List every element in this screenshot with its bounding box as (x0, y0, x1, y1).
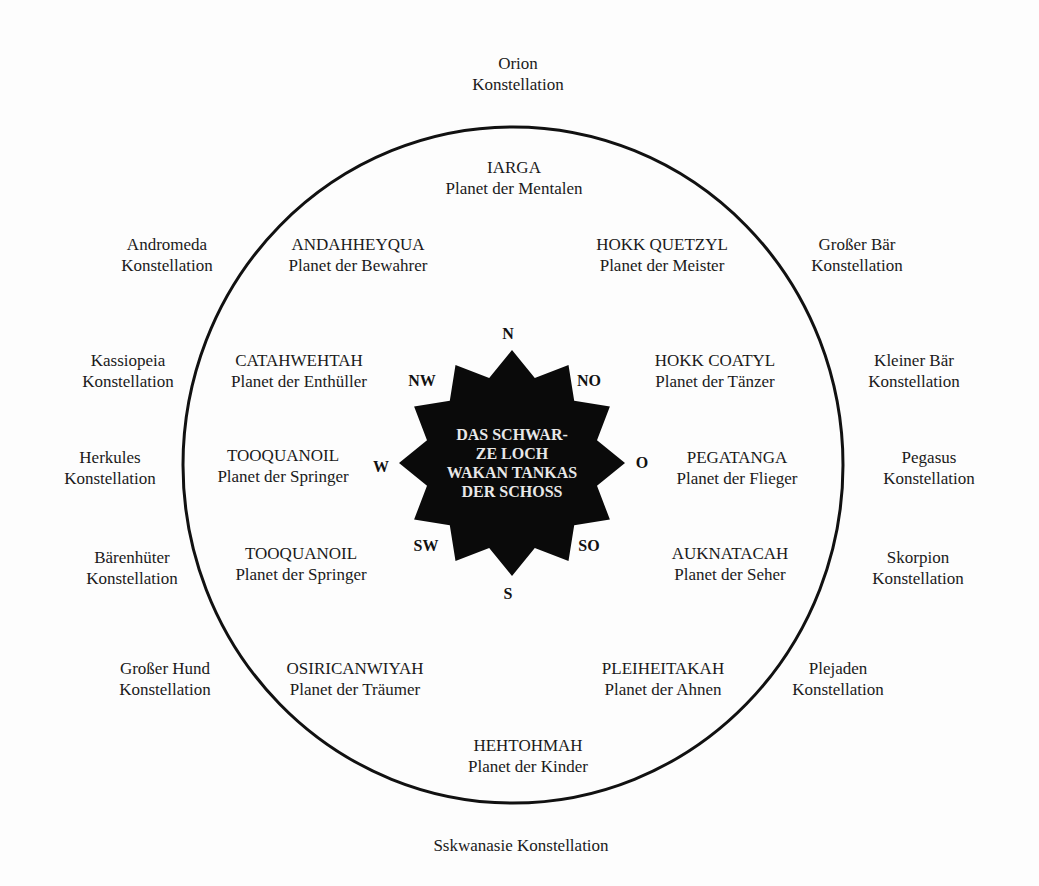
planet-pleiheitakah: PLEIHEITAKAH Planet der Ahnen (602, 658, 724, 700)
constellation-desc: Konstellation (119, 679, 211, 700)
planet-name: PEGATANGA (677, 447, 798, 468)
constellation-desc: Konstellation (121, 255, 213, 276)
planet-osiricanwiyah: OSIRICANWIYAH Planet der Träumer (287, 658, 424, 700)
constellation-pegasus: Pegasus Konstellation (883, 447, 975, 489)
constellation-name: Großer Hund (119, 658, 211, 679)
planet-desc: Planet der Ahnen (602, 679, 724, 700)
constellation-name: Kassiopeia (82, 350, 174, 371)
planet-name: CATAHWEHTAH (231, 350, 367, 371)
constellation-name: Herkules (64, 447, 156, 468)
planet-name: HEHTOHMAH (468, 735, 588, 756)
planet-auknatacah: AUKNATACAH Planet der Seher (672, 543, 789, 585)
constellation-desc: Konstellation (64, 468, 156, 489)
constellation-name: Plejaden (792, 658, 884, 679)
planet-desc: Planet der Meister (596, 255, 728, 276)
constellation-name: Bärenhüter (86, 547, 178, 568)
constellation-name: Skorpion (872, 547, 964, 568)
constellation-sskwanasie: Sskwanasie Konstellation (433, 835, 608, 856)
constellation-name: Andromeda (121, 234, 213, 255)
constellation-plejaden: Plejaden Konstellation (792, 658, 884, 700)
planet-hehtohmah: HEHTOHMAH Planet der Kinder (468, 735, 588, 777)
constellation-desc: Konstellation (811, 255, 903, 276)
planet-name: IARGA (446, 157, 583, 178)
constellation-name: Pegasus (883, 447, 975, 468)
direction-s: S (504, 585, 513, 603)
planet-name: HOKK QUETZYL (596, 234, 728, 255)
constellation-name: Sskwanasie Konstellation (433, 835, 608, 856)
planet-iarga: IARGA Planet der Mentalen (446, 157, 583, 199)
constellation-herkules: Herkules Konstellation (64, 447, 156, 489)
constellation-desc: Konstellation (883, 468, 975, 489)
constellation-grosser-baer: Großer Bär Konstellation (811, 234, 903, 276)
planet-name: TOOQUANOIL (235, 543, 366, 564)
constellation-kassiopeia: Kassiopeia Konstellation (82, 350, 174, 392)
direction-w: W (373, 458, 389, 476)
direction-no: NO (577, 372, 601, 390)
center-line-2: ZE LOCH (447, 444, 578, 463)
direction-n: N (502, 325, 514, 343)
constellation-name: Orion (472, 53, 564, 74)
planet-name: HOKK COATYL (655, 350, 775, 371)
planet-tooquanoil-sw: TOOQUANOIL Planet der Springer (235, 543, 366, 585)
constellation-desc: Konstellation (82, 371, 174, 392)
planet-desc: Planet der Kinder (468, 756, 588, 777)
planet-tooquanoil-w: TOOQUANOIL Planet der Springer (217, 445, 348, 487)
direction-nw: NW (408, 372, 436, 390)
direction-so: SO (578, 537, 599, 555)
constellation-desc: Konstellation (86, 568, 178, 589)
center-line-3: WAKAN TANKAS (447, 463, 578, 482)
planet-andahheyqua: ANDAHHEYQUA Planet der Bewahrer (289, 234, 428, 276)
planet-desc: Planet der Springer (217, 466, 348, 487)
planet-name: AUKNATACAH (672, 543, 789, 564)
constellation-baerenhueter: Bärenhüter Konstellation (86, 547, 178, 589)
planet-desc: Planet der Springer (235, 564, 366, 585)
planet-desc: Planet der Flieger (677, 468, 798, 489)
planet-desc: Planet der Seher (672, 564, 789, 585)
constellation-kleiner-baer: Kleiner Bär Konstellation (868, 350, 960, 392)
planet-name: TOOQUANOIL (217, 445, 348, 466)
center-line-1: DAS SCHWAR- (447, 425, 578, 444)
planet-pegatanga: PEGATANGA Planet der Flieger (677, 447, 798, 489)
planet-desc: Planet der Tänzer (655, 371, 775, 392)
constellation-skorpion: Skorpion Konstellation (872, 547, 964, 589)
constellation-orion: Orion Konstellation (472, 53, 564, 95)
direction-sw: SW (414, 537, 439, 555)
constellation-desc: Konstellation (872, 568, 964, 589)
planet-desc: Planet der Bewahrer (289, 255, 428, 276)
planet-desc: Planet der Träumer (287, 679, 424, 700)
planet-hokk-quetzyl: HOKK QUETZYL Planet der Meister (596, 234, 728, 276)
center-line-4: DER SCHOSS (447, 482, 578, 501)
planet-desc: Planet der Enthüller (231, 371, 367, 392)
planet-hokk-coatyl: HOKK COATYL Planet der Tänzer (655, 350, 775, 392)
planet-name: ANDAHHEYQUA (289, 234, 428, 255)
constellation-desc: Konstellation (792, 679, 884, 700)
planet-name: PLEIHEITAKAH (602, 658, 724, 679)
constellation-name: Großer Bär (811, 234, 903, 255)
constellation-andromeda: Andromeda Konstellation (121, 234, 213, 276)
black-hole-label: DAS SCHWAR- ZE LOCH WAKAN TANKAS DER SCH… (447, 425, 578, 501)
planet-name: OSIRICANWIYAH (287, 658, 424, 679)
constellation-desc: Konstellation (868, 371, 960, 392)
constellation-name: Kleiner Bär (868, 350, 960, 371)
direction-o: O (636, 454, 648, 472)
planet-desc: Planet der Mentalen (446, 178, 583, 199)
constellation-grosser-hund: Großer Hund Konstellation (119, 658, 211, 700)
constellation-desc: Konstellation (472, 74, 564, 95)
planet-catahwehtah: CATAHWEHTAH Planet der Enthüller (231, 350, 367, 392)
